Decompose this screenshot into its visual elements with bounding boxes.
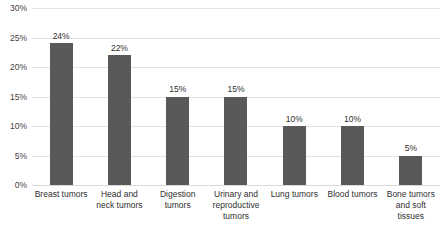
- bar-chart: 0%5%10%15%20%25%30% 24%22%15%15%10%10%5%…: [0, 0, 445, 225]
- bar-slot: 22%: [90, 8, 148, 185]
- bar-value-label: 10%: [344, 115, 361, 124]
- category-label: Head and neck tumors: [90, 189, 148, 211]
- y-axis-tick-label: 10%: [10, 122, 27, 131]
- bar-slot: 5%: [382, 8, 440, 185]
- category-label: Blood tumors: [323, 189, 381, 200]
- bar-value-label: 24%: [53, 32, 70, 41]
- bar-value-label: 5%: [405, 144, 417, 153]
- bars-layer: 24%22%15%15%10%10%5%: [32, 8, 440, 185]
- bar-value-label: 15%: [169, 85, 186, 94]
- gridline-0pct: [32, 185, 440, 186]
- y-axis-tick-label: 20%: [10, 63, 27, 72]
- bar-value-label: 10%: [286, 115, 303, 124]
- bar[interactable]: [224, 97, 247, 186]
- bar[interactable]: [50, 43, 73, 185]
- bar[interactable]: [341, 126, 364, 185]
- bar-value-label: 22%: [111, 44, 128, 53]
- y-axis-tick-label: 5%: [15, 151, 27, 160]
- y-axis-tick-label: 0%: [15, 181, 27, 190]
- bar[interactable]: [108, 55, 131, 185]
- bar-slot: 15%: [207, 8, 265, 185]
- bar[interactable]: [283, 126, 306, 185]
- bar-slot: 10%: [323, 8, 381, 185]
- bar[interactable]: [399, 156, 422, 186]
- category-label: Bone tumors and soft tissues: [382, 189, 440, 222]
- y-axis-tick-label: 30%: [10, 4, 27, 13]
- category-label: Lung tumors: [265, 189, 323, 200]
- category-axis: Breast tumorsHead and neck tumorsDigesti…: [32, 189, 440, 222]
- bar-slot: 10%: [265, 8, 323, 185]
- category-label: Digestion tumors: [149, 189, 207, 211]
- bar-value-label: 15%: [227, 85, 244, 94]
- category-label: Urinary and reproductive tumors: [207, 189, 265, 222]
- y-axis-tick-label: 15%: [10, 92, 27, 101]
- bar-slot: 15%: [149, 8, 207, 185]
- category-label: Breast tumors: [32, 189, 90, 200]
- y-axis-tick-label: 25%: [10, 33, 27, 42]
- bar[interactable]: [166, 97, 189, 186]
- bar-slot: 24%: [32, 8, 90, 185]
